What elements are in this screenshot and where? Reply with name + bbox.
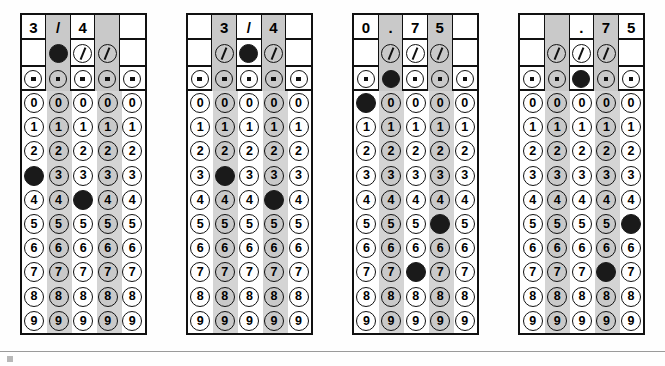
- bubble-cell-c1-d3[interactable]: 3: [520, 164, 545, 188]
- fraction-cell-col3[interactable]: [570, 40, 595, 67]
- bubble-cell-c5-d6[interactable]: 6: [120, 236, 145, 260]
- digit-bubble-icon[interactable]: 3: [572, 166, 592, 186]
- decimal-bubble-icon[interactable]: [456, 70, 474, 88]
- bubble-cell-c2-d2[interactable]: 2: [212, 139, 237, 163]
- answer-box-col3[interactable]: 7: [403, 15, 428, 40]
- answer-box-col5[interactable]: [453, 15, 478, 40]
- bubble-cell-c3-d2[interactable]: 2: [570, 139, 595, 163]
- digit-bubble-icon[interactable]: 4: [455, 190, 475, 210]
- digit-bubble-icon[interactable]: 6: [190, 238, 210, 258]
- fraction-bubble-filled-icon[interactable]: [49, 44, 68, 63]
- bubble-cell-c2-d4[interactable]: 4: [46, 188, 71, 212]
- digit-bubble-icon[interactable]: 0: [98, 93, 118, 113]
- decimal-cell-col4[interactable]: [95, 67, 120, 91]
- digit-bubble-icon[interactable]: 9: [455, 311, 475, 331]
- bubble-cell-c4-d5[interactable]: 5: [262, 212, 287, 236]
- digit-bubble-icon[interactable]: 2: [356, 141, 376, 161]
- decimal-cell-col2[interactable]: [379, 67, 404, 91]
- bubble-cell-c5-d7[interactable]: 7: [619, 260, 644, 284]
- bubble-cell-c5-d8[interactable]: 8: [453, 285, 478, 309]
- fraction-cell-col4[interactable]: [262, 40, 287, 67]
- bubble-cell-c1-d4[interactable]: 4: [354, 188, 379, 212]
- digit-bubble-icon[interactable]: 2: [264, 141, 284, 161]
- bubble-cell-c1-d9[interactable]: 9: [188, 309, 213, 333]
- digit-bubble-icon[interactable]: 5: [73, 214, 93, 234]
- bubble-cell-c2-d9[interactable]: 9: [379, 309, 404, 333]
- digit-bubble-icon[interactable]: 8: [264, 287, 284, 307]
- bubble-cell-c5-d9[interactable]: 9: [453, 309, 478, 333]
- bubble-cell-c1-d1[interactable]: 1: [520, 115, 545, 139]
- bubble-cell-c2-d8[interactable]: 8: [212, 285, 237, 309]
- bubble-cell-c5-d8[interactable]: 8: [120, 285, 145, 309]
- bubble-cell-c4-d6[interactable]: 6: [262, 236, 287, 260]
- digit-bubble-icon[interactable]: 7: [356, 262, 376, 282]
- decimal-bubble-icon[interactable]: [406, 70, 424, 88]
- digit-bubble-icon[interactable]: 0: [430, 93, 450, 113]
- digit-bubble-icon[interactable]: 9: [381, 311, 401, 331]
- bubble-cell-c4-d5[interactable]: 5: [428, 212, 453, 236]
- bubble-cell-c3-d5[interactable]: 5: [570, 212, 595, 236]
- digit-bubble-icon[interactable]: 9: [289, 311, 309, 331]
- bubble-cell-c1-d5[interactable]: 5: [22, 212, 47, 236]
- digit-bubble-filled-icon[interactable]: 7: [596, 262, 616, 282]
- digit-bubble-icon[interactable]: 5: [239, 214, 259, 234]
- digit-bubble-icon[interactable]: 9: [24, 311, 44, 331]
- digit-bubble-filled-icon[interactable]: 4: [264, 190, 284, 210]
- digit-bubble-icon[interactable]: 7: [523, 262, 543, 282]
- digit-bubble-icon[interactable]: 8: [215, 287, 235, 307]
- decimal-bubble-icon[interactable]: [431, 70, 449, 88]
- answer-box-col1[interactable]: [188, 15, 213, 40]
- bubble-cell-c1-d4[interactable]: 4: [520, 188, 545, 212]
- bubble-cell-c5-d0[interactable]: 0: [120, 91, 145, 115]
- digit-bubble-icon[interactable]: 1: [596, 117, 616, 137]
- digit-bubble-icon[interactable]: 4: [356, 190, 376, 210]
- bubble-cell-c1-d8[interactable]: 8: [520, 285, 545, 309]
- bubble-cell-c5-d5[interactable]: 5: [453, 212, 478, 236]
- bubble-cell-c5-d0[interactable]: 0: [619, 91, 644, 115]
- digit-bubble-icon[interactable]: 4: [215, 190, 235, 210]
- digit-bubble-icon[interactable]: 0: [572, 93, 592, 113]
- digit-bubble-icon[interactable]: 9: [523, 311, 543, 331]
- digit-bubble-icon[interactable]: 7: [572, 262, 592, 282]
- digit-bubble-icon[interactable]: 3: [523, 166, 543, 186]
- digit-bubble-icon[interactable]: 3: [289, 166, 309, 186]
- bubble-cell-c4-d8[interactable]: 8: [262, 285, 287, 309]
- bubble-cell-c1-d0[interactable]: 0: [22, 91, 47, 115]
- digit-bubble-icon[interactable]: 8: [73, 287, 93, 307]
- bubble-cell-c5-d3[interactable]: 3: [453, 164, 478, 188]
- bubble-cell-c4-d7[interactable]: 7: [428, 260, 453, 284]
- digit-bubble-icon[interactable]: 0: [49, 93, 69, 113]
- digit-bubble-icon[interactable]: 4: [406, 190, 426, 210]
- fraction-bubble-icon[interactable]: [215, 44, 234, 63]
- digit-bubble-icon[interactable]: 6: [455, 238, 475, 258]
- digit-bubble-icon[interactable]: 2: [572, 141, 592, 161]
- bubble-cell-c4-d1[interactable]: 1: [262, 115, 287, 139]
- digit-bubble-icon[interactable]: 8: [523, 287, 543, 307]
- digit-bubble-icon[interactable]: 3: [122, 166, 142, 186]
- digit-bubble-icon[interactable]: 5: [122, 214, 142, 234]
- digit-bubble-icon[interactable]: 1: [190, 117, 210, 137]
- digit-bubble-icon[interactable]: 9: [356, 311, 376, 331]
- bubble-cell-c4-d0[interactable]: 0: [95, 91, 120, 115]
- bubble-cell-c1-d1[interactable]: 1: [188, 115, 213, 139]
- bubble-cell-c3-d7[interactable]: 7: [570, 260, 595, 284]
- digit-bubble-icon[interactable]: 5: [406, 214, 426, 234]
- digit-bubble-icon[interactable]: 9: [49, 311, 69, 331]
- digit-bubble-icon[interactable]: 5: [289, 214, 309, 234]
- digit-bubble-icon[interactable]: 8: [190, 287, 210, 307]
- bubble-cell-c1-d3[interactable]: 3: [188, 164, 213, 188]
- digit-bubble-icon[interactable]: 9: [190, 311, 210, 331]
- digit-bubble-icon[interactable]: 1: [264, 117, 284, 137]
- digit-bubble-icon[interactable]: 6: [381, 238, 401, 258]
- digit-bubble-icon[interactable]: 8: [547, 287, 567, 307]
- bubble-cell-c2-d6[interactable]: 6: [545, 236, 570, 260]
- bubble-cell-c5-d1[interactable]: 1: [619, 115, 644, 139]
- bubble-cell-c1-d0[interactable]: 0: [354, 91, 379, 115]
- bubble-cell-c2-d5[interactable]: 5: [212, 212, 237, 236]
- bubble-cell-c2-d8[interactable]: 8: [379, 285, 404, 309]
- bubble-cell-c2-d1[interactable]: 1: [545, 115, 570, 139]
- digit-bubble-icon[interactable]: 3: [356, 166, 376, 186]
- decimal-bubble-icon[interactable]: [123, 70, 141, 88]
- digit-bubble-icon[interactable]: 2: [190, 141, 210, 161]
- digit-bubble-icon[interactable]: 0: [264, 93, 284, 113]
